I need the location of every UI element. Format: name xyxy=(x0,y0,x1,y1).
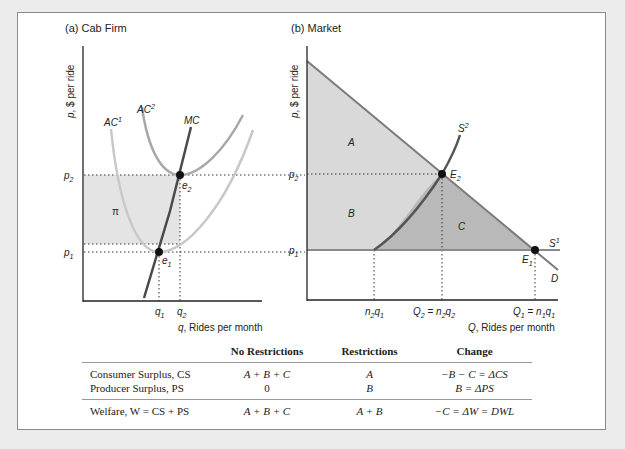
ac2-label: AC2 xyxy=(136,103,155,115)
cell-change: B = ΔPS xyxy=(417,381,532,400)
e2-label: e2 xyxy=(182,180,192,193)
header-blank xyxy=(82,343,212,363)
profit-area xyxy=(84,175,180,244)
cell-change: −B − C = ΔCS xyxy=(417,363,532,382)
panel-b-xlabel: Q, Rides per month xyxy=(468,322,555,333)
panel-a-title: (a) Cab Firm xyxy=(65,22,127,34)
area-b-label: B xyxy=(348,208,355,219)
table-row: Producer Surplus, PS 0 B B = ΔPS xyxy=(82,381,532,400)
Q1-tick: Q1 = n1q1 xyxy=(513,306,555,319)
panel-market: (b) Market p, $ per ride A B C S2 S1 D E xyxy=(288,22,560,333)
row-label: Welfare, W = CS + PS xyxy=(82,400,212,419)
cell-no-restrictions: A + B + C xyxy=(212,400,322,419)
cell-no-restrictions: 0 xyxy=(212,381,322,400)
table-row: Welfare, W = CS + PS A + B + C A + B −C … xyxy=(82,400,532,419)
q1-tick: q1 xyxy=(155,306,165,319)
cell-restrictions: A + B xyxy=(322,400,417,419)
row-label: Consumer Surplus, CS xyxy=(82,363,212,382)
E2-label: E2 xyxy=(450,169,461,182)
panel-a-xlabel: q, Rides per month xyxy=(178,322,263,333)
welfare-table: No Restrictions Restrictions Change Cons… xyxy=(82,343,532,418)
point-E2 xyxy=(438,170,446,178)
E1-label: E1 xyxy=(522,254,533,267)
e1-label: e1 xyxy=(162,255,172,268)
table-row: Consumer Surplus, CS A + B + C A −B − C … xyxy=(82,363,532,382)
panel-cab-firm: (a) Cab Firm p, $ per ride AC1 AC2 MC e2… xyxy=(63,22,305,333)
q2-tick: q2 xyxy=(177,306,187,319)
header-restrictions: Restrictions xyxy=(322,343,417,363)
s1-label: S1 xyxy=(549,237,560,249)
panel-a-p1-tick: p1 xyxy=(63,247,74,260)
panel-b-ylabel: p, $ per ride xyxy=(289,64,300,119)
cell-change: −C = ΔW = DWL xyxy=(417,400,532,419)
area-a-label: A xyxy=(347,137,355,148)
ac1-label: AC1 xyxy=(103,116,122,128)
panel-b-p2-tick: p2 xyxy=(288,169,299,182)
profit-label: π xyxy=(112,206,119,217)
cell-restrictions: B xyxy=(322,381,417,400)
point-e2 xyxy=(176,171,184,179)
cell-no-restrictions: A + B + C xyxy=(212,363,322,382)
table-header-row: No Restrictions Restrictions Change xyxy=(82,343,532,363)
n2q1-tick: n2q1 xyxy=(365,306,384,319)
cell-restrictions: A xyxy=(322,363,417,382)
demand-label: D xyxy=(551,273,558,284)
header-change: Change xyxy=(417,343,532,363)
row-label: Producer Surplus, PS xyxy=(82,381,212,400)
panel-a-ylabel: p, $ per ride xyxy=(65,64,76,119)
s2-label: S2 xyxy=(458,122,469,134)
header-no-restrictions: No Restrictions xyxy=(212,343,322,363)
panel-a-p2-tick: p2 xyxy=(63,170,74,183)
panel-b-title: (b) Market xyxy=(291,22,341,34)
mc-label: MC xyxy=(184,115,200,126)
point-E1 xyxy=(531,246,539,254)
panel-b-p1-tick: p1 xyxy=(288,245,299,258)
Q2-tick: Q2 = n2q2 xyxy=(413,306,455,319)
area-c-label: C xyxy=(458,221,466,232)
